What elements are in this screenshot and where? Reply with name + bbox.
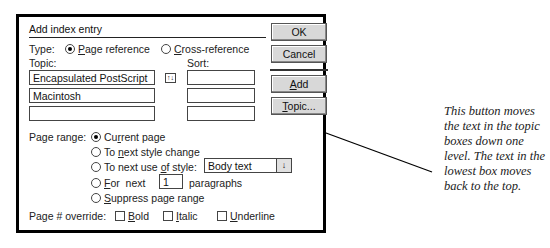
radio-next-use-of-style[interactable]: To next use of style: bbox=[91, 161, 197, 173]
page-override-label: Page # override: bbox=[29, 210, 106, 222]
radio-selected-icon bbox=[91, 132, 101, 142]
checkbox-icon bbox=[115, 211, 125, 221]
add-button[interactable]: Add bbox=[271, 75, 327, 93]
radio-suppress-page-range[interactable]: Suppress page range bbox=[91, 192, 204, 204]
type-label: Type: bbox=[29, 43, 55, 55]
dropdown-arrow-icon: ↓ bbox=[276, 159, 291, 172]
radio-unselected-icon bbox=[91, 147, 101, 157]
style-dropdown-value: Body text bbox=[208, 160, 252, 172]
paragraphs-label: paragraphs bbox=[189, 177, 242, 189]
checkbox-icon bbox=[163, 211, 173, 221]
paragraphs-count-field[interactable]: 1 bbox=[159, 174, 183, 189]
page-range-label: Page range: bbox=[29, 131, 86, 143]
cancel-button[interactable]: Cancel bbox=[271, 45, 327, 63]
rotate-topics-icon: ↑↓ bbox=[167, 74, 174, 81]
sort-label: Sort: bbox=[187, 57, 209, 69]
checkbox-underline[interactable]: Underline bbox=[217, 210, 275, 222]
radio-unselected-icon bbox=[91, 193, 101, 203]
dialog-title: Add index entry bbox=[29, 23, 266, 38]
topic-label: Topic: bbox=[29, 57, 56, 69]
topic-button[interactable]: Topic... bbox=[271, 97, 327, 115]
ok-button[interactable]: OK bbox=[271, 23, 327, 41]
sort-field-1[interactable] bbox=[187, 70, 255, 85]
style-dropdown[interactable]: Body text ↓ bbox=[204, 158, 292, 173]
checkbox-italic[interactable]: Italic bbox=[163, 210, 198, 222]
add-index-entry-dialog: Add index entry Type: Page reference Cro… bbox=[16, 14, 326, 233]
checkbox-bold[interactable]: Bold bbox=[115, 210, 149, 222]
button-separator bbox=[270, 69, 328, 71]
rotate-topics-button[interactable]: ↑↓ bbox=[165, 73, 176, 83]
topic-field-2[interactable]: Macintosh bbox=[29, 88, 155, 103]
radio-next-style-change[interactable]: To next style change bbox=[91, 146, 200, 158]
annotation-text: This button moves the text in the topic … bbox=[444, 104, 548, 194]
radio-unselected-icon bbox=[91, 178, 101, 188]
radio-unselected-icon bbox=[161, 44, 171, 54]
checkbox-icon bbox=[217, 211, 227, 221]
radio-unselected-icon bbox=[91, 162, 101, 172]
sort-field-3[interactable] bbox=[187, 106, 255, 121]
radio-for-next[interactable]: For next bbox=[91, 177, 145, 189]
radio-cross-reference[interactable]: Cross-reference bbox=[161, 43, 249, 55]
sort-field-2[interactable] bbox=[187, 88, 255, 103]
topic-field-3[interactable] bbox=[29, 106, 155, 121]
radio-page-reference[interactable]: Page reference bbox=[65, 43, 150, 55]
radio-selected-icon bbox=[65, 44, 75, 54]
topic-field-1[interactable]: Encapsulated PostScript bbox=[29, 70, 155, 85]
radio-current-page[interactable]: Current page bbox=[91, 131, 165, 143]
